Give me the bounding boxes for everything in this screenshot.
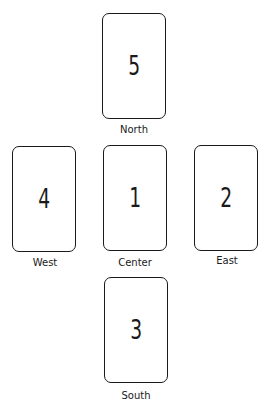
label-north: North	[94, 125, 174, 135]
card-south: 3	[104, 277, 168, 383]
label-east: East	[187, 256, 267, 266]
label-center: Center	[95, 258, 175, 268]
card-number: 3	[130, 317, 142, 343]
card-number: 2	[220, 185, 232, 211]
card-number: 5	[128, 53, 140, 79]
card-number: 1	[129, 185, 141, 211]
card-east: 2	[194, 145, 258, 251]
label-west: West	[5, 258, 85, 268]
card-north: 5	[102, 13, 166, 119]
card-west: 4	[12, 146, 76, 252]
label-south: South	[96, 391, 176, 401]
card-center: 1	[103, 145, 167, 251]
card-number: 4	[38, 186, 50, 212]
